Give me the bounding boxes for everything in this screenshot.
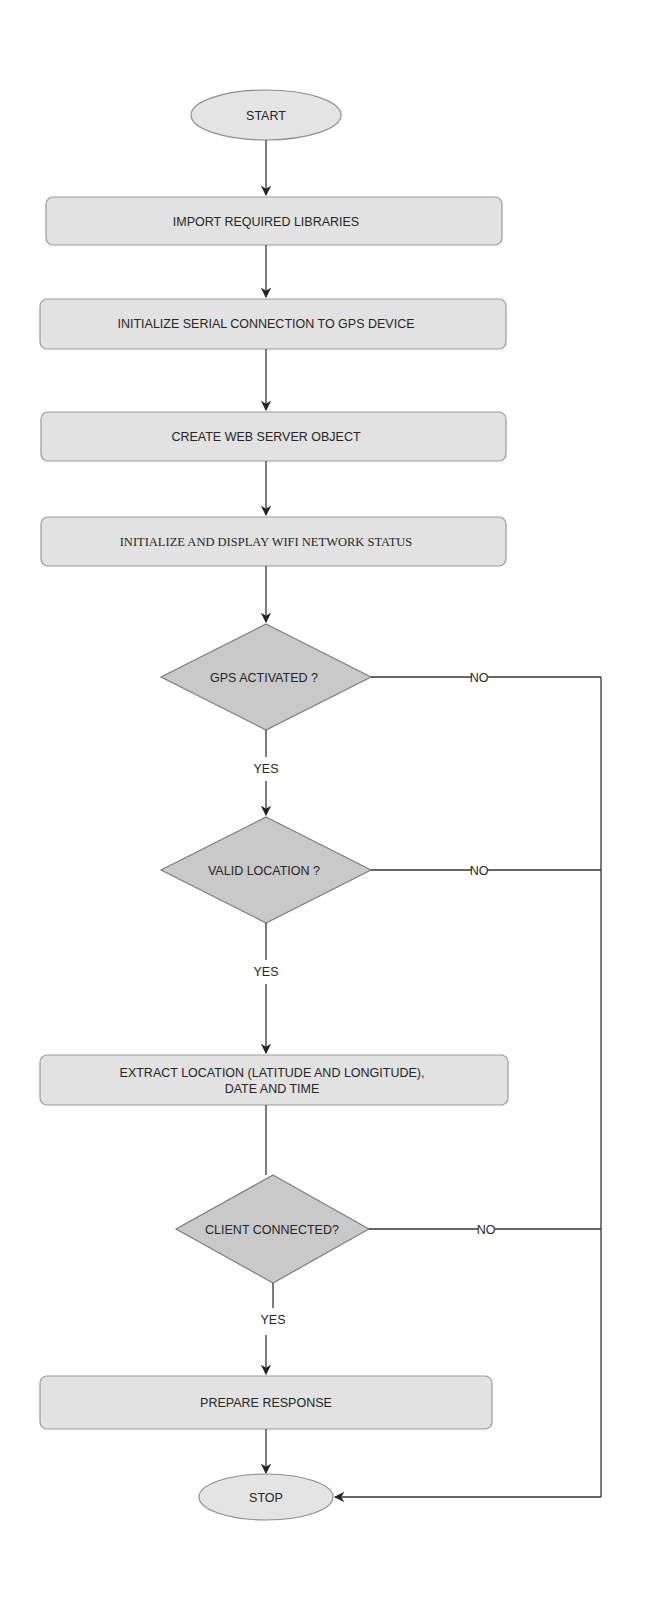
prepare-response-step: PREPARE RESPONSE [40,1376,492,1429]
create-webserver-step: CREATE WEB SERVER OBJECT [41,412,506,461]
init-wifi-step: INITIALIZE AND DISPLAY WIFI NETWORK STAT… [41,517,506,566]
valid-no-label: NO [470,864,489,878]
gps-no-label: NO [470,671,489,685]
import-libraries-step: IMPORT REQUIRED LIBRARIES [46,197,502,245]
extract-location-label-line2: DATE AND TIME [225,1082,320,1096]
init-wifi-label: INITIALIZE AND DISPLAY WIFI NETWORK STAT… [120,535,413,549]
start-label: START [246,109,286,123]
flowchart-canvas: START IMPORT REQUIRED LIBRARIES INITIALI… [0,0,658,1611]
client-no-label: NO [477,1223,496,1237]
start-terminal: START [191,90,341,140]
stop-label: STOP [249,1491,283,1505]
gps-yes-label: YES [253,762,278,776]
client-connected-label: CLIENT CONNECTED? [205,1223,339,1237]
stop-terminal: STOP [199,1474,333,1520]
init-serial-step: INITIALIZE SERIAL CONNECTION TO GPS DEVI… [40,299,506,349]
client-connected-decision: CLIENT CONNECTED? [176,1175,369,1283]
prepare-response-label: PREPARE RESPONSE [200,1396,332,1410]
extract-location-step: EXTRACT LOCATION (LATITUDE AND LONGITUDE… [40,1055,508,1105]
valid-yes-label: YES [253,965,278,979]
valid-location-decision: VALID LOCATION ? [161,817,371,923]
init-serial-label: INITIALIZE SERIAL CONNECTION TO GPS DEVI… [117,317,414,331]
client-yes-label: YES [260,1313,285,1327]
valid-location-label: VALID LOCATION ? [208,864,320,878]
create-webserver-label: CREATE WEB SERVER OBJECT [171,430,361,444]
extract-location-label-line1: EXTRACT LOCATION (LATITUDE AND LONGITUDE… [120,1066,425,1080]
gps-activated-decision: GPS ACTIVATED ? [161,624,371,730]
gps-activated-label: GPS ACTIVATED ? [210,671,318,685]
import-libraries-label: IMPORT REQUIRED LIBRARIES [173,215,359,229]
